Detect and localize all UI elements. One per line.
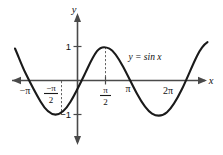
sine-graph-svg: x y 1 −1 −π −π 2	[0, 0, 223, 155]
x-tick-label-minus-pi: −π	[20, 85, 31, 96]
x-tick-label-pi: π	[125, 83, 130, 94]
fraction-denominator: 2	[103, 97, 108, 107]
figure-background	[0, 0, 223, 155]
fraction-numerator: −π	[46, 83, 56, 93]
x-tick-label-2pi: 2π	[163, 85, 173, 96]
fraction-numerator: π	[103, 85, 108, 95]
sine-graph-figure: x y 1 −1 −π −π 2	[0, 0, 223, 155]
x-axis-label: x	[208, 75, 214, 86]
y-tick-label-1: 1	[66, 41, 71, 52]
fraction-denominator: 2	[49, 95, 54, 105]
y-axis-label: y	[71, 4, 77, 15]
equation-annotation: y = sin x	[127, 52, 162, 62]
